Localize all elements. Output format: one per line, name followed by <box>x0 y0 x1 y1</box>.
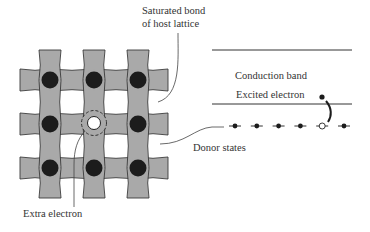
ionized-donor-state <box>319 123 325 129</box>
donor-diagram: Saturated bond of host lattice Extra ele… <box>0 0 370 232</box>
host-atom <box>130 160 147 177</box>
extra-electron-label: Extra electron <box>23 208 83 219</box>
host-lattice-label: of host lattice <box>142 18 199 29</box>
conduction-band-label: Conduction band <box>235 70 308 81</box>
host-atom <box>42 160 59 177</box>
excited-electron-label: Excited electron <box>236 89 305 100</box>
excited-electron-dot <box>319 94 324 99</box>
host-atom <box>130 116 147 133</box>
occupied-donor-state <box>342 124 347 129</box>
occupied-donor-state <box>233 124 238 129</box>
host-atom <box>42 72 59 89</box>
donor-states-label: Donor states <box>193 142 246 153</box>
donor-levels <box>229 123 350 129</box>
host-atom <box>86 72 103 89</box>
host-atom <box>86 160 103 177</box>
donor-ion-open-circle <box>88 117 101 130</box>
donor-impurity-site <box>82 111 107 136</box>
host-atom <box>42 116 59 133</box>
occupied-donor-state <box>276 124 281 129</box>
saturated-bond-label: Saturated bond <box>142 5 206 16</box>
saturated-bond-leader <box>158 33 178 102</box>
occupied-donor-state <box>298 124 303 129</box>
occupied-donor-state <box>254 124 259 129</box>
host-atom <box>130 72 147 89</box>
